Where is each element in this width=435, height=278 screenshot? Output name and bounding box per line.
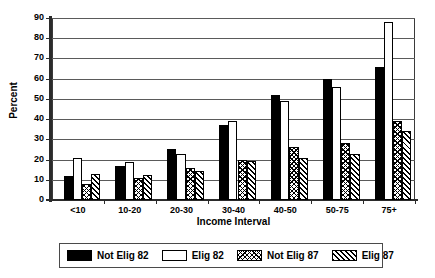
x-tick-mark <box>208 200 209 204</box>
bars-layer <box>52 18 415 200</box>
chart-legend: Not Elig 82Elig 82Not Elig 87Elig 87 <box>59 243 383 268</box>
x-tick-mark <box>259 200 260 204</box>
bar <box>402 131 411 200</box>
bar <box>186 168 195 200</box>
x-tick-label: 75+ <box>363 205 415 215</box>
bar <box>289 147 298 200</box>
legend-swatch <box>162 250 187 261</box>
y-tick-label: 0 <box>18 194 44 204</box>
bar <box>167 149 176 200</box>
x-tick-mark <box>415 200 416 204</box>
y-tick-label: 60 <box>18 73 44 83</box>
x-tick-label: 10-20 <box>104 205 156 215</box>
x-tick-mark <box>363 200 364 204</box>
y-tick-mark <box>46 119 51 120</box>
legend-swatch <box>332 250 357 261</box>
bar <box>195 171 204 200</box>
bar <box>384 22 393 200</box>
x-tick-mark <box>104 200 105 204</box>
bar <box>115 166 124 200</box>
y-tick-label: 20 <box>18 154 44 164</box>
bar <box>143 175 152 200</box>
bar <box>375 67 384 200</box>
x-tick-label: 40-50 <box>259 205 311 215</box>
bar <box>219 125 228 200</box>
legend-label: Elig 87 <box>362 250 394 261</box>
bar <box>125 162 134 200</box>
bar <box>341 143 350 200</box>
y-tick-label: 50 <box>18 93 44 103</box>
bar-chart: Percent 0102030405060708090 <1010-2020-3… <box>0 0 435 278</box>
legend-label: Not Elig 87 <box>267 250 319 261</box>
y-tick-label: 30 <box>18 133 44 143</box>
bar <box>350 154 359 201</box>
y-tick-label: 90 <box>18 12 44 22</box>
legend-item: Not Elig 82 <box>67 250 157 261</box>
bar <box>64 176 73 200</box>
bar <box>393 121 402 200</box>
y-tick-label: 70 <box>18 52 44 62</box>
y-tick-mark <box>46 200 51 201</box>
x-axis-label: Income Interval <box>52 216 415 227</box>
y-tick-label: 10 <box>18 174 44 184</box>
y-tick-mark <box>46 180 51 181</box>
y-tick-label: 40 <box>18 113 44 123</box>
y-tick-mark <box>46 79 51 80</box>
x-tick-mark <box>311 200 312 204</box>
y-tick-mark <box>46 99 51 100</box>
bar <box>238 160 247 200</box>
legend-item: Elig 82 <box>162 250 232 261</box>
y-tick-label: 80 <box>18 32 44 42</box>
bar <box>91 174 100 200</box>
bar <box>271 95 280 200</box>
bar <box>176 154 185 201</box>
bar <box>73 158 82 200</box>
legend-item: Elig 87 <box>332 250 402 261</box>
bar <box>280 101 289 200</box>
legend-swatch <box>237 250 262 261</box>
x-tick-mark <box>156 200 157 204</box>
bar <box>323 79 332 200</box>
bar <box>299 158 308 200</box>
x-tick-label: <10 <box>52 205 104 215</box>
bar <box>332 87 341 200</box>
legend-label: Elig 82 <box>192 250 224 261</box>
x-tick-label: 50-75 <box>311 205 363 215</box>
y-tick-mark <box>46 160 51 161</box>
bar <box>82 184 91 200</box>
legend-item: Not Elig 87 <box>237 250 327 261</box>
bar <box>247 161 256 200</box>
y-tick-mark <box>46 58 51 59</box>
y-tick-mark <box>46 38 51 39</box>
y-tick-mark <box>46 18 51 19</box>
legend-swatch <box>67 250 92 261</box>
legend-label: Not Elig 82 <box>97 250 149 261</box>
y-axis-label: Percent <box>8 66 19 136</box>
bar <box>134 178 143 200</box>
x-tick-label: 30-40 <box>208 205 260 215</box>
x-tick-label: 20-30 <box>156 205 208 215</box>
bar <box>228 121 237 200</box>
y-tick-mark <box>46 139 51 140</box>
